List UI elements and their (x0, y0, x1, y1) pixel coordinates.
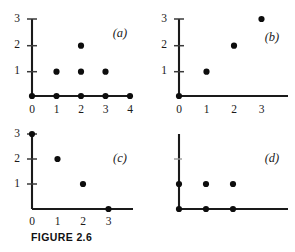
figure-2-6: 3 2 1 0 1 2 3 4 (a) (0, 0, 295, 252)
data-point (54, 156, 60, 162)
panel-d-data-points (176, 181, 236, 212)
panel-b-svg: 3 2 1 0 1 2 3 (b) (148, 0, 295, 120)
data-point (102, 69, 108, 75)
panel-c-xlabel-3: 3 (106, 215, 112, 227)
panel-a-xlabel-3: 3 (103, 103, 109, 115)
data-point (29, 93, 35, 99)
data-point (78, 69, 84, 75)
panel-b-ylabel-3: 3 (161, 12, 167, 24)
panel-a-xlabel-1: 1 (54, 103, 60, 115)
data-point (78, 43, 84, 49)
panel-a-xlabel-2: 2 (78, 103, 84, 115)
panel-b-ylabel-1: 1 (161, 64, 167, 76)
panel-a-data-points (29, 43, 133, 99)
panel-a-label: (a) (113, 26, 128, 40)
panel-c-ylabel-3: 3 (14, 127, 20, 139)
data-point (127, 93, 133, 99)
panel-d-svg: (d) (148, 120, 295, 228)
panel-c-label: (c) (113, 151, 127, 165)
data-point (105, 206, 111, 212)
data-point (53, 69, 59, 75)
panel-c-xlabel-1: 1 (55, 215, 61, 227)
data-point (230, 206, 236, 212)
data-point (230, 181, 236, 187)
panel-c-svg: 3 2 1 0 1 2 3 (c) (0, 120, 148, 228)
panel-b-label: (b) (265, 30, 280, 44)
data-point (80, 181, 86, 187)
data-point (231, 43, 237, 49)
panel-a-xlabel-4: 4 (127, 103, 133, 115)
scatter-panel-b: 3 2 1 0 1 2 3 (b) (148, 0, 295, 120)
panel-c-data-points (29, 131, 112, 212)
data-point (176, 181, 182, 187)
data-point (53, 93, 59, 99)
panel-a-ylabel-1: 1 (14, 64, 20, 76)
data-point (203, 206, 209, 212)
scatter-panel-a: 3 2 1 0 1 2 3 4 (a) (0, 0, 148, 120)
data-point (102, 93, 108, 99)
scatter-panel-c: 3 2 1 0 1 2 3 (c) (0, 120, 148, 228)
panel-c-ylabel-2: 2 (14, 152, 20, 164)
data-point (176, 206, 182, 212)
figure-caption: FIGURE 2.6 (31, 231, 92, 243)
panel-b-data-points (176, 16, 265, 99)
panel-b-ylabel-2: 2 (161, 38, 167, 50)
panel-a-svg: 3 2 1 0 1 2 3 4 (a) (0, 0, 148, 120)
panel-a-ylabel-3: 3 (14, 12, 20, 24)
data-point (203, 181, 209, 187)
data-point (258, 16, 264, 22)
panel-b-xlabel-0: 0 (176, 103, 182, 115)
data-point (78, 93, 84, 99)
scatter-panel-d: (d) (148, 120, 295, 228)
data-point (29, 131, 35, 137)
panel-c-xlabel-0: 0 (29, 215, 35, 227)
panel-b-xlabel-1: 1 (204, 103, 210, 115)
panel-b-xlabel-3: 3 (259, 103, 265, 115)
data-point (203, 69, 209, 75)
panel-a-xlabel-0: 0 (29, 103, 35, 115)
panel-a-ylabel-2: 2 (14, 38, 20, 50)
panel-b-xlabel-2: 2 (231, 103, 237, 115)
panel-d-label: (d) (265, 151, 280, 165)
panel-c-xlabel-2: 2 (80, 215, 86, 227)
data-point (176, 93, 182, 99)
panel-c-ylabel-1: 1 (14, 177, 20, 189)
